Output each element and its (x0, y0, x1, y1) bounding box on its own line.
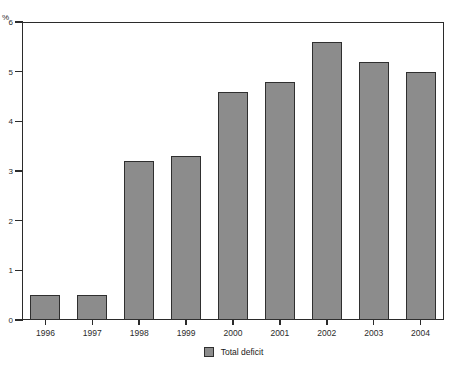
chart-legend: Total deficit (0, 347, 467, 357)
bar (359, 62, 389, 320)
x-axis-tick (185, 320, 187, 325)
y-axis-tick (15, 71, 23, 73)
y-axis-tick-label: 0 (0, 316, 13, 325)
bar (312, 42, 342, 320)
x-axis-tick-label: 2001 (270, 328, 289, 338)
y-axis-tick (15, 21, 23, 23)
bar (30, 295, 60, 320)
bar (124, 161, 154, 320)
y-axis-tick (15, 121, 23, 123)
y-axis-tick (15, 319, 23, 321)
y-axis-tick (15, 270, 23, 272)
x-axis-tick (420, 320, 422, 325)
x-axis-tick (373, 320, 375, 325)
x-axis-tick (45, 320, 47, 325)
bar (218, 92, 248, 320)
bar (406, 72, 436, 320)
x-axis-tick-label: 2004 (411, 328, 430, 338)
x-axis-tick-label: 2002 (317, 328, 336, 338)
bar (265, 82, 295, 320)
legend-swatch-total-deficit (204, 347, 214, 357)
y-axis-tick-label: 3 (0, 167, 13, 176)
y-axis-tick (15, 220, 23, 222)
x-axis-tick-label: 2000 (224, 328, 243, 338)
x-axis-tick (232, 320, 234, 325)
y-axis-tick (15, 170, 23, 172)
bar-chart: % 0123456 199619971998199920002001200220… (0, 0, 467, 375)
x-axis-tick (326, 320, 328, 325)
legend-label-total-deficit: Total deficit (221, 347, 264, 357)
x-axis-tick-label: 1997 (83, 328, 102, 338)
x-axis-tick-label: 1998 (130, 328, 149, 338)
bar (77, 295, 107, 320)
x-axis-tick-label: 2003 (364, 328, 383, 338)
x-axis-tick-label: 1996 (36, 328, 55, 338)
y-axis-tick-label: 4 (0, 117, 13, 126)
bar (171, 156, 201, 320)
y-axis-tick-label: 5 (0, 67, 13, 76)
x-axis-tick (279, 320, 281, 325)
x-axis-tick (138, 320, 140, 325)
x-axis-tick-label: 1999 (177, 328, 196, 338)
y-axis-tick-label: 6 (0, 18, 13, 27)
y-axis-tick-label: 1 (0, 266, 13, 275)
x-axis-tick (92, 320, 94, 325)
y-axis-tick-label: 2 (0, 216, 13, 225)
